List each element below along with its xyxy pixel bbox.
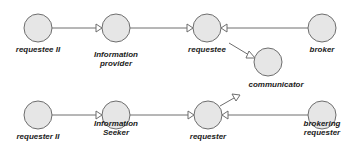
label-requester-ii: requester II — [16, 132, 59, 141]
arrowhead-icon — [187, 24, 193, 32]
node-broker — [308, 14, 336, 42]
label-line: Information — [94, 119, 138, 128]
arrowhead-icon — [221, 24, 227, 32]
label-broker: broker — [310, 45, 335, 54]
label-line: requester — [304, 128, 341, 137]
label-requestee: requestee — [188, 45, 226, 54]
node-requester-ii — [24, 101, 52, 129]
node-requestee-ii — [24, 14, 52, 42]
arrowhead-icon — [246, 51, 255, 58]
label-line: Information — [94, 50, 138, 59]
arrowhead-icon — [232, 94, 240, 101]
label-information-provider: Information provider — [94, 50, 138, 68]
arrowhead-icon — [188, 111, 194, 119]
label-line: Seeker — [94, 128, 138, 137]
label-requester: requester — [190, 132, 226, 141]
label-line: provider — [94, 59, 138, 68]
label-line: brokering — [304, 119, 341, 128]
label-communicator: communicator — [248, 80, 303, 89]
label-brokering-requester: brokering requester — [304, 119, 341, 137]
label-requestee-ii: requestee II — [16, 45, 60, 54]
arrowhead-icon — [96, 111, 102, 119]
edge-requestee-to-communicator — [229, 43, 249, 55]
label-information-seeker: Information Seeker — [94, 119, 138, 137]
node-requestee — [193, 14, 221, 42]
node-information-provider — [102, 14, 130, 42]
arrowhead-icon — [222, 111, 228, 119]
edge-requester-to-communicator — [220, 98, 234, 106]
node-communicator — [254, 48, 282, 76]
node-requester — [194, 101, 222, 129]
arrowhead-icon — [96, 24, 102, 32]
